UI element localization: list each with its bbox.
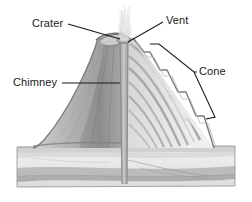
label-chimney: Chimney <box>13 77 57 88</box>
smoke-plume <box>118 0 133 40</box>
label-cone: Cone <box>199 66 226 77</box>
volcano-diagram-figure: Crater Vent Cone Chimney <box>0 0 252 202</box>
label-vent: Vent <box>166 15 188 26</box>
label-crater: Crater <box>32 18 63 29</box>
leader-line-crater <box>68 24 120 39</box>
leader-line-vent <box>128 22 163 42</box>
volcano-diagram-canvas <box>0 0 252 202</box>
cone-left-cutaway <box>33 33 128 148</box>
chimney-conduit <box>120 40 128 184</box>
cone-right-slope <box>126 36 216 148</box>
